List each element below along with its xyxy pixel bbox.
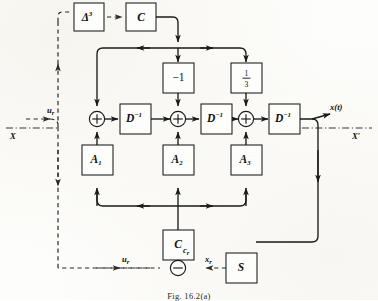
- delay-3-exponent: −1: [283, 111, 291, 119]
- difference-node[interactable]: [170, 260, 185, 275]
- block-a3[interactable]: A3: [231, 145, 262, 175]
- gain-one-third-numerator: 1: [245, 69, 249, 78]
- block-delta-cubed[interactable]: Δ3: [74, 3, 104, 31]
- figure-caption: Fig. 16.2(a): [0, 291, 378, 301]
- gain-minus-one-label: −1: [172, 71, 184, 83]
- dashed-feedback-loop: [26, 12, 150, 268]
- delay-2-exponent: −1: [215, 111, 223, 119]
- summing-node-3[interactable]: [238, 111, 253, 126]
- block-a2[interactable]: A2: [163, 145, 194, 175]
- gain-one-third-denominator: 3: [245, 80, 249, 89]
- block-delay-3[interactable]: D−1: [269, 104, 300, 134]
- a2-subscript: 2: [178, 159, 183, 166]
- block-a1[interactable]: A1: [82, 145, 113, 175]
- c-bottom-label: C: [174, 238, 182, 250]
- block-delay-2[interactable]: D−1: [201, 104, 232, 134]
- axis-label-right: X′: [351, 131, 360, 141]
- block-gain-one-third[interactable]: 1 3: [231, 63, 262, 93]
- delta-exponent: 3: [88, 10, 93, 18]
- s-label: S: [238, 261, 244, 273]
- a1-label: A: [90, 153, 99, 165]
- a2-label: A: [171, 153, 180, 165]
- summing-node-2[interactable]: [170, 111, 185, 126]
- a3-label: A: [239, 153, 248, 165]
- delta-symbol: Δ: [81, 11, 89, 23]
- label-xr: xr: [204, 254, 212, 265]
- a1-subscript: 1: [98, 159, 101, 166]
- label-ur-bottom: ur: [122, 254, 130, 265]
- a3-subscript: 3: [246, 159, 251, 166]
- c-top-label: C: [137, 11, 145, 23]
- block-s[interactable]: S: [226, 253, 257, 283]
- summing-node-1[interactable]: [89, 111, 104, 126]
- label-ur-top: ur: [47, 105, 55, 116]
- block-c-top[interactable]: C: [126, 3, 156, 31]
- axis-label-left: X: [9, 131, 16, 141]
- block-delay-1[interactable]: D−1: [120, 104, 151, 134]
- label-output-xt: x(t): [329, 102, 343, 112]
- delay-1-exponent: −1: [134, 111, 142, 119]
- block-gain-minus-one[interactable]: −1: [163, 63, 194, 93]
